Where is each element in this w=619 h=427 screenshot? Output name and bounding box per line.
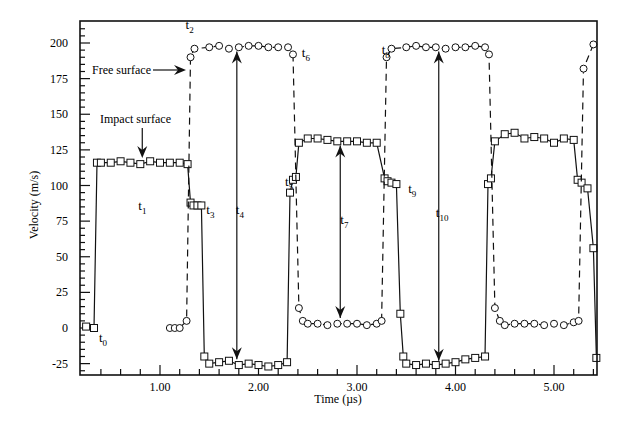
square-marker: [541, 135, 548, 142]
square-marker: [487, 175, 494, 182]
circle-marker: [289, 51, 296, 58]
circle-marker: [462, 44, 469, 51]
circle-marker: [575, 317, 582, 324]
time-marker-label: t9: [408, 181, 417, 199]
circle-marker: [580, 65, 587, 72]
square-marker: [157, 159, 164, 166]
square-marker: [590, 245, 597, 252]
circle-marker: [183, 317, 190, 324]
circle-marker: [403, 44, 410, 51]
circle-marker: [531, 320, 538, 327]
square-marker: [235, 362, 242, 369]
circle-marker: [255, 42, 262, 49]
square-marker: [107, 159, 114, 166]
square-marker: [127, 159, 134, 166]
free-surface-label: Free surface: [92, 63, 151, 77]
time-marker-label: t2: [186, 17, 194, 35]
circle-marker: [314, 320, 321, 327]
square-marker: [91, 325, 98, 332]
square-marker: [501, 131, 508, 138]
square-marker: [83, 323, 90, 330]
circle-marker: [275, 44, 282, 51]
circle-marker: [551, 320, 558, 327]
time-marker-label: t0: [99, 330, 108, 348]
circle-marker: [422, 44, 429, 51]
square-marker: [245, 360, 252, 367]
square-marker: [397, 310, 404, 317]
square-marker: [482, 353, 489, 360]
impact-surface-line: [86, 133, 596, 367]
square-marker: [206, 360, 213, 367]
square-marker: [198, 202, 205, 209]
time-marker-label: t10: [436, 205, 449, 223]
square-marker: [442, 360, 449, 367]
square-marker: [393, 181, 400, 188]
circle-marker: [176, 325, 183, 332]
square-marker: [531, 134, 538, 141]
square-marker: [491, 138, 498, 145]
time-marker-label: t1: [138, 198, 146, 216]
circle-marker: [482, 44, 489, 51]
time-marker-label: t3: [206, 202, 215, 220]
square-marker: [216, 359, 223, 366]
square-marker: [452, 359, 459, 366]
x-axis-label: Time (µs): [314, 392, 361, 406]
square-marker: [354, 138, 361, 145]
circle-marker: [485, 51, 492, 58]
square-marker: [166, 159, 173, 166]
square-marker: [560, 135, 567, 142]
square-marker: [137, 161, 144, 168]
time-marker-label: t7: [340, 212, 349, 230]
square-marker: [97, 159, 104, 166]
circle-marker: [216, 42, 223, 49]
circle-marker: [206, 44, 213, 51]
circle-marker: [590, 41, 597, 48]
y-tick-label: 200: [50, 36, 68, 50]
y-axis-ticks: -250255075100125150175200: [50, 29, 90, 371]
y-axis-label: Velocity (m/s): [27, 171, 41, 239]
circle-marker: [191, 45, 198, 52]
circle-marker: [187, 54, 194, 61]
y-tick-label: 0: [62, 321, 68, 335]
circle-marker: [354, 320, 361, 327]
square-marker: [314, 135, 321, 142]
square-marker: [334, 138, 341, 145]
y-tick-label: 125: [50, 143, 68, 157]
circle-marker: [324, 322, 331, 329]
circle-marker: [413, 42, 420, 49]
circle-marker: [378, 317, 385, 324]
y-tick-label: 175: [50, 72, 68, 86]
impact-surface-label: Impact surface: [100, 112, 171, 126]
free-surface-line: [170, 44, 594, 328]
square-marker: [184, 161, 191, 168]
circle-marker: [334, 320, 341, 327]
square-marker: [584, 185, 591, 192]
x-tick-label: 5.00: [544, 380, 565, 394]
square-marker: [570, 136, 577, 143]
circle-marker: [541, 322, 548, 329]
y-tick-label: 150: [50, 107, 68, 121]
y-tick-label: 25: [56, 285, 68, 299]
square-marker: [284, 359, 291, 366]
square-marker: [432, 362, 439, 369]
x-axis-ticks: 1.002.003.004.005.00: [101, 365, 594, 394]
square-marker: [413, 362, 420, 369]
square-marker: [201, 353, 208, 360]
square-marker: [295, 139, 302, 146]
square-marker: [344, 138, 351, 145]
square-marker: [422, 360, 429, 367]
circle-marker: [285, 44, 292, 51]
square-marker: [462, 356, 469, 363]
circle-marker: [560, 322, 567, 329]
square-marker: [551, 139, 558, 146]
circle-marker: [511, 320, 518, 327]
square-marker: [304, 135, 311, 142]
square-marker: [373, 139, 380, 146]
square-marker: [511, 129, 518, 136]
y-tick-label: 75: [56, 214, 68, 228]
square-marker: [275, 362, 282, 369]
circle-marker: [344, 320, 351, 327]
time-marker-label: t6: [302, 45, 311, 63]
y-tick-label: 50: [56, 250, 68, 264]
square-marker: [403, 360, 410, 367]
